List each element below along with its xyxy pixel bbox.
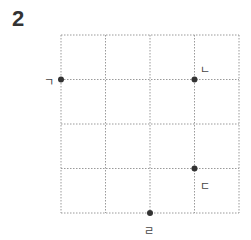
point-label-giyeok: ㄱ [44, 73, 54, 89]
point-ㄷ [192, 166, 198, 172]
grid-points [58, 77, 198, 217]
point-ㄱ [58, 77, 64, 83]
point-label-rieul: ㄹ [144, 222, 154, 238]
grid-lines [61, 35, 239, 213]
point-label-nieun: ㄴ [200, 61, 210, 77]
point-ㄴ [192, 77, 198, 83]
dot-grid-diagram [0, 0, 251, 240]
point-ㄹ [147, 210, 153, 216]
point-label-digeut: ㄷ [200, 177, 210, 193]
